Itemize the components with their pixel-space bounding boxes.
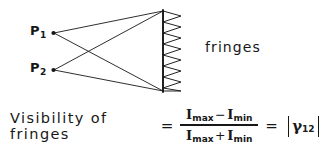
figure-canvas: P1 P2 fringes Visibility of fringes = Im… bbox=[0, 0, 328, 159]
numerator-imax-subscript: max bbox=[192, 113, 213, 123]
source-dot-p1 bbox=[51, 31, 55, 35]
source-dot-p2 bbox=[51, 68, 55, 72]
denominator-operator: + bbox=[215, 128, 226, 143]
source-label-p2-letter: P bbox=[30, 60, 40, 75]
gamma-symbol: γ bbox=[292, 117, 302, 135]
numerator-operator: − bbox=[215, 107, 226, 122]
source-label-p1: P1 bbox=[30, 23, 46, 38]
denominator-imax-subscript: max bbox=[192, 134, 213, 144]
source-label-p2-subscript: 2 bbox=[40, 67, 46, 77]
source-label-p1-subscript: 1 bbox=[40, 30, 46, 40]
source-label-p2: P2 bbox=[30, 60, 46, 75]
source-label-p1-letter: P bbox=[30, 23, 40, 38]
fringe-intensity-sawtooth bbox=[163, 11, 181, 91]
visibility-formula: Visibility of fringes = Imax−Imin Imax+I… bbox=[10, 99, 322, 151]
fraction-bar bbox=[180, 124, 258, 125]
equals-sign-1: = bbox=[161, 117, 174, 135]
fraction-numerator: Imax−Imin bbox=[184, 107, 254, 123]
formula-left-hand-side: Visibility of fringes bbox=[10, 110, 154, 142]
numerator-imin-symbol: I bbox=[227, 107, 233, 122]
ray-p1-to-screen-top bbox=[54, 11, 163, 33]
denominator-imin-symbol: I bbox=[227, 128, 233, 143]
equals-sign-2: = bbox=[265, 117, 278, 135]
ray-lines bbox=[54, 11, 163, 91]
ray-p2-to-screen-bottom bbox=[54, 70, 163, 91]
fraction-denominator: Imax+Imin bbox=[184, 128, 254, 144]
fringes-caption: fringes bbox=[205, 39, 261, 55]
gamma-subscript: 12 bbox=[302, 124, 315, 134]
visibility-fraction: Imax−Imin Imax+Imin bbox=[180, 107, 258, 143]
ray-p1-to-screen-bottom bbox=[54, 33, 163, 91]
degree-of-coherence-term: γ12 bbox=[285, 116, 322, 137]
denominator-imin-subscript: min bbox=[234, 134, 253, 144]
ray-p2-to-screen-top bbox=[54, 11, 163, 70]
absolute-value-bar-right bbox=[318, 116, 319, 137]
numerator-imin-subscript: min bbox=[234, 113, 253, 123]
absolute-value-bar-left bbox=[288, 116, 289, 137]
